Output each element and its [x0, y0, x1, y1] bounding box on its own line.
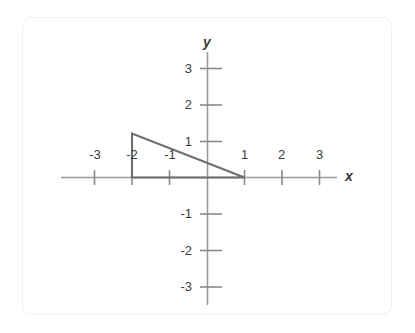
y-tick-label-neg1: -1 — [168, 207, 192, 220]
x-tick-label-neg1: -1 — [161, 148, 179, 161]
y-tick-label-neg3: -3 — [168, 280, 192, 293]
y-tick-label-pos3: 3 — [168, 62, 192, 75]
y-tick-label-neg2: -2 — [168, 244, 192, 257]
y-tick-label-pos2: 2 — [168, 98, 192, 111]
x-tick-label-pos2: 2 — [274, 148, 289, 161]
x-axis-label: x — [345, 170, 353, 183]
x-tick-label-neg2: -2 — [123, 148, 141, 161]
y-axis-label: y — [203, 36, 211, 49]
x-tick-label-pos3: 3 — [312, 148, 327, 161]
x-tick-label-pos1: 1 — [237, 148, 252, 161]
y-tick-label-pos1: 1 — [168, 135, 192, 148]
coordinate-plane-chart: -3 -2 -1 1 2 3 3 2 1 -1 -2 -3 y x — [0, 0, 415, 333]
x-tick-label-neg3: -3 — [86, 148, 104, 161]
